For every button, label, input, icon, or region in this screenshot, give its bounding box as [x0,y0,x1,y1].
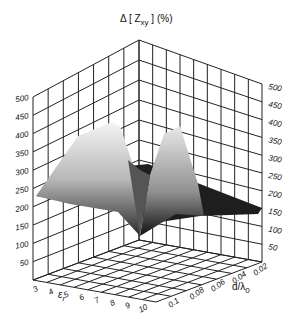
svg-text:250: 250 [14,185,30,196]
svg-text:500: 500 [15,93,30,104]
svg-text:0.08: 0.08 [188,285,206,302]
svg-text:350: 350 [268,136,283,147]
y-axis-ticks: 0.10.080.060.040.02 [167,261,270,310]
svg-text:0.06: 0.06 [209,277,227,294]
svg-text:500: 500 [268,82,283,93]
z-axis-left-ticks: 50100150200250300350400450500 [14,93,30,268]
y-axis-label: d/λ0 [232,281,250,295]
svg-text:400: 400 [268,118,283,129]
svg-text:150: 150 [15,221,30,232]
svg-text:10: 10 [137,302,150,315]
svg-text:250: 250 [267,171,283,182]
svg-text:450: 450 [15,111,30,122]
chart-title: Δ [ Zxy ] (%) [120,13,172,27]
svg-text:7: 7 [93,295,102,305]
svg-text:100: 100 [15,239,30,250]
svg-text:100: 100 [268,225,283,236]
svg-text:300: 300 [268,153,283,164]
svg-text:9: 9 [124,300,133,310]
svg-text:0.02: 0.02 [251,261,269,278]
svg-text:50: 50 [19,258,30,269]
svg-text:50: 50 [268,242,279,253]
svg-text:4: 4 [47,287,56,297]
svg-text:450: 450 [268,100,283,111]
surface-plot: Δ [ Zxy ] (%) 50100150200250300350400450… [0,0,302,319]
svg-text:3: 3 [31,284,40,294]
svg-text:6: 6 [77,292,86,302]
svg-text:400: 400 [15,130,30,141]
svg-text:200: 200 [14,203,30,214]
svg-text:200: 200 [267,189,283,200]
svg-text:300: 300 [15,166,30,177]
svg-text:0.1: 0.1 [167,296,181,310]
svg-text:150: 150 [268,207,283,218]
z-axis-right-ticks: 50100150200250300350400450500 [267,82,283,253]
svg-text:8: 8 [108,298,117,308]
svg-text:350: 350 [15,148,30,159]
